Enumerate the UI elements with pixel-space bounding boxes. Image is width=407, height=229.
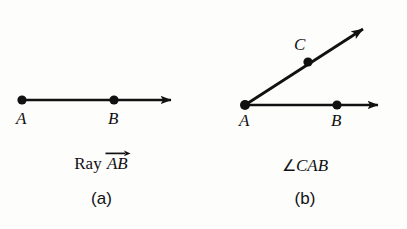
point-dot-c: [303, 57, 312, 66]
point-label-a: A: [16, 110, 26, 127]
point-label-c: C: [294, 36, 305, 53]
panel-caption-b: (b): [203, 190, 407, 207]
ray-word: Ray: [74, 154, 101, 173]
vector-ab-text: AB: [107, 154, 128, 173]
vector-ab: AB: [106, 155, 129, 172]
angle-symbol-icon: ∠: [282, 157, 296, 174]
figure-panel-a: A B Ray AB (a): [0, 0, 203, 229]
point-label-b: B: [108, 110, 118, 127]
point-dot-a: [17, 95, 26, 104]
angle-points-text: CAB: [296, 156, 328, 175]
figure-panel-b: A B C ∠CAB (b): [203, 0, 407, 229]
geometry-figure: A B Ray AB (a): [0, 0, 407, 229]
point-dot-b: [109, 95, 118, 104]
point-dot-b: [332, 100, 341, 109]
point-label-b: B: [331, 112, 341, 129]
panel-caption-a: (a): [0, 190, 203, 207]
vector-arrow-icon: [105, 150, 131, 156]
point-dot-a: [240, 100, 250, 110]
point-label-a: A: [239, 112, 249, 129]
ray-name-label: Ray AB: [0, 155, 203, 172]
angle-name-label: ∠CAB: [203, 157, 407, 174]
